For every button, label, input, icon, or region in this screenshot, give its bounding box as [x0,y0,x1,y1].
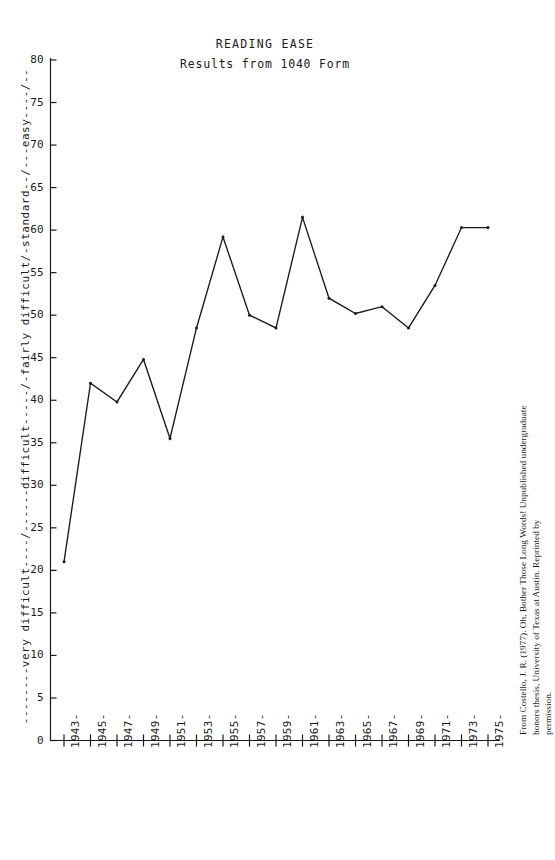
data-point [248,314,251,317]
y-tick-label: 5 [18,692,44,703]
x-tick-label: 1945- [96,713,109,748]
data-point [407,326,410,329]
y-tick-marks [51,60,57,741]
source-credit: From Costello, J. R. (1977). Oh, Bother … [517,405,555,735]
credit-line-1: From Costello, J. R. (1977). Oh, Bother … [518,405,541,735]
credit-line-2: permission. [542,405,555,735]
data-point [195,326,198,329]
x-tick-label: 1947- [122,713,135,748]
data-point [328,297,331,300]
x-tick-label: 1971- [440,713,453,748]
x-tick-label: 1951- [175,713,188,748]
y-tick-label: 30 [18,479,44,490]
y-tick-label: 40 [18,394,44,405]
y-tick-label: 75 [18,97,44,108]
x-tick-label: 1973- [467,713,480,748]
data-point [434,284,437,287]
x-tick-label: 1953- [202,713,215,748]
y-tick-label: 20 [18,564,44,575]
x-tick-label: 1961- [308,713,321,748]
x-tick-label: 1959- [281,713,294,748]
data-point [63,560,66,563]
data-point [169,437,172,440]
x-tick-label: 1969- [414,713,427,748]
data-point [354,312,357,315]
x-tick-label: 1955- [228,713,241,748]
y-tick-label: 35 [18,437,44,448]
data-point [89,382,92,385]
data-point [275,326,278,329]
y-tick-label: 45 [18,352,44,363]
data-point [301,216,304,219]
x-tick-label: 1957- [255,713,268,748]
y-tick-label: 65 [18,182,44,193]
y-tick-label: 60 [18,224,44,235]
data-point [222,235,225,238]
data-point [460,226,463,229]
x-tick-label: 1975- [493,713,506,748]
y-tick-label: 80 [18,54,44,65]
data-point [142,358,145,361]
y-tick-label: 10 [18,649,44,660]
y-tick-label: 70 [18,139,44,150]
data-point [116,400,119,403]
data-line [64,217,488,562]
data-point-markers [63,216,490,564]
data-point [381,305,384,308]
y-tick-label: 15 [18,607,44,618]
y-tick-label: 0 [18,735,44,746]
x-tick-label: 1949- [149,713,162,748]
data-point [487,226,490,229]
y-tick-label: 25 [18,522,44,533]
x-tick-label: 1965- [361,713,374,748]
x-tick-label: 1943- [69,713,82,748]
x-tick-label: 1967- [387,713,400,748]
y-tick-label: 50 [18,309,44,320]
y-tick-label: 55 [18,267,44,278]
x-tick-label: 1963- [334,713,347,748]
